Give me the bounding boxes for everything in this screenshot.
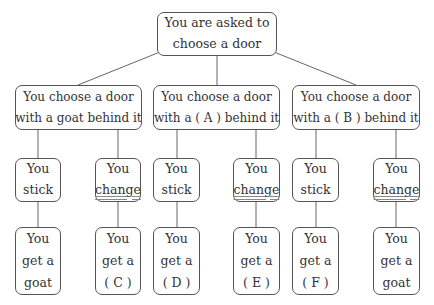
action-line1: You (385, 163, 408, 176)
outcome-node: You get a ( E ) (233, 227, 280, 295)
choice-line1: You choose a door (161, 91, 271, 103)
outcome-line3: ( F ) (302, 277, 328, 290)
root-line2: choose a door (173, 38, 261, 51)
outcome-line1: You (304, 233, 327, 246)
outcome-line1: You (245, 233, 268, 246)
action-line1: You (245, 163, 268, 176)
outcome-line2: get a (241, 255, 273, 268)
outcome-node: You get a goat (373, 227, 420, 295)
action-node-stick: You stick (153, 158, 200, 202)
choice-line2: with a ( A ) behind it (154, 112, 279, 124)
outcome-line1: You (385, 233, 408, 246)
choice-node-a: You choose a door with a ( A ) behind it (153, 85, 280, 130)
outcome-line2: get a (300, 255, 332, 268)
action-line1: You (27, 163, 50, 176)
action-node-change: You change (373, 158, 420, 202)
action-line1: You (107, 163, 130, 176)
action-line2: stick (23, 184, 53, 197)
action-node-stick: You stick (15, 158, 61, 202)
outcome-line1: You (107, 233, 130, 246)
outcome-node: You get a ( C ) (95, 227, 141, 295)
outcome-node: You get a ( F ) (292, 227, 339, 295)
outcome-line3: ( D ) (163, 277, 191, 290)
outcome-line1: You (165, 233, 188, 246)
root-line1: You are asked to (165, 17, 270, 30)
action-line2: stick (161, 184, 191, 197)
outcome-line2: get a (102, 255, 134, 268)
outcome-line2: get a (161, 255, 193, 268)
action-node-change: You change (95, 158, 141, 202)
outcome-node: You get a ( D ) (153, 227, 200, 295)
choice-node-b: You choose a door with a ( B ) behind it (292, 85, 420, 130)
action-line2: stick (300, 184, 330, 197)
action-line2: change (374, 184, 420, 197)
action-line2: change (95, 184, 141, 197)
root-node: You are asked to choose a door (157, 12, 277, 56)
outcome-node: You get a goat (15, 227, 61, 295)
choice-node-goat: You choose a door with a goat behind it (15, 85, 142, 130)
action-node-change: You change (233, 158, 280, 202)
outcome-line2: get a (22, 255, 54, 268)
outcome-line1: You (27, 233, 50, 246)
action-line1: You (304, 163, 327, 176)
action-line1: You (165, 163, 188, 176)
outcome-line3: ( E ) (243, 277, 270, 290)
choice-line2: with a goat behind it (15, 112, 141, 124)
action-node-stick: You stick (292, 158, 339, 202)
choice-line1: You choose a door (301, 91, 411, 103)
outcome-line2: get a (381, 255, 413, 268)
outcome-line3: ( C ) (104, 277, 131, 290)
outcome-line3: goat (382, 277, 410, 290)
outcome-line3: goat (24, 277, 52, 290)
choice-line1: You choose a door (23, 91, 133, 103)
action-line2: change (234, 184, 280, 197)
choice-line2: with a ( B ) behind it (293, 112, 418, 124)
